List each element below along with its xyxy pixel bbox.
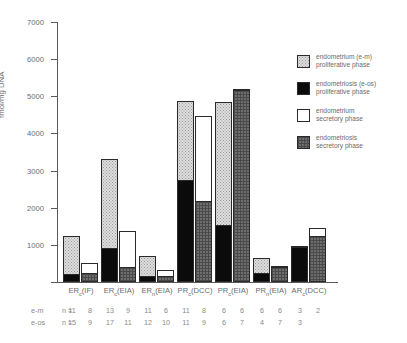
sample-size-row: e-mn =118139116118666632: [0, 306, 407, 317]
sample-size-value: 9: [202, 318, 206, 327]
bar: [233, 89, 250, 283]
bar-segment-em-proliferative: [102, 160, 117, 249]
x-axis-line: [57, 282, 338, 283]
sample-size-value: 8: [88, 306, 92, 315]
x-axis-tick-label: ARc(DCC): [292, 286, 327, 297]
bar-segment-eos-proliferative: [292, 248, 307, 281]
legend-label: endometriosis (e-os)proliferative phase: [316, 80, 376, 97]
sample-size-value: 11: [124, 318, 131, 327]
sample-size-value: 8: [202, 306, 206, 315]
bar: [215, 102, 232, 283]
bar-segment-eos-proliferative: [140, 277, 155, 281]
sample-size-value: 7: [240, 318, 244, 327]
x-axis-tick-label: ERc(IF): [68, 286, 93, 297]
bar: [253, 258, 270, 283]
x-axis-tick-label: ERc(EIA): [104, 286, 135, 297]
bar-group: [139, 22, 175, 282]
bar-segment-eos-secretory: [158, 277, 173, 281]
bar-segment-em-secretory: [120, 232, 135, 268]
sample-size-value: 6: [164, 306, 168, 315]
legend-label-line2: secretory phase: [316, 142, 363, 150]
y-axis-tick-label: 7000: [27, 18, 44, 27]
bar: [291, 246, 308, 282]
legend-label: endometrium (e-m)proliferative phase: [316, 53, 372, 70]
sample-size-value: 11: [68, 306, 75, 315]
sample-size-value: 3: [298, 306, 302, 315]
bar: [63, 236, 80, 282]
bar-segment-eos-proliferative: [178, 181, 193, 281]
bar-segment-eos-secretory: [310, 237, 325, 281]
legend-item: endometriosis (e-os)proliferative phase: [297, 81, 407, 101]
sample-size-row-label: e-m: [31, 306, 43, 315]
legend-label-line2: proliferative phase: [316, 61, 372, 69]
bar-segment-eos-secretory: [120, 268, 135, 281]
x-axis-tick-label: PRc(EIA): [218, 286, 249, 297]
bar-segment-eos-proliferative: [216, 226, 231, 281]
sample-size-value: 17: [106, 318, 114, 327]
y-axis-tick-label: 5000: [27, 92, 44, 101]
bar: [139, 256, 156, 282]
bar-segment-em-secretory: [310, 229, 325, 237]
bar-segment-em-proliferative: [216, 103, 231, 227]
legend-swatch-em-prolif: [297, 55, 310, 68]
chart-figure: fmol/mg DNA 1000200030004000500060007000…: [0, 0, 407, 343]
legend-label-line2: proliferative phase: [316, 88, 376, 96]
sample-size-row-label: e-os: [31, 318, 45, 327]
bar-group: [63, 22, 99, 282]
y-axis-tick-label: 2000: [27, 203, 44, 212]
sample-size-value: 12: [144, 318, 152, 327]
y-axis-labels: 1000200030004000500060007000: [0, 0, 55, 283]
bar-group: [101, 22, 137, 282]
x-axis-tick-label: ERn(EIA): [142, 286, 173, 297]
legend-swatch-em-secret: [297, 109, 310, 122]
bar-group: [253, 22, 289, 282]
sample-size-value: 6: [222, 306, 226, 315]
y-axis-tick-label: 1000: [27, 240, 44, 249]
bar: [309, 228, 326, 282]
legend-item: endometriosissecretory phase: [297, 135, 407, 155]
legend-item: endometriumsecretory phase: [297, 108, 407, 128]
legend-item: endometrium (e-m)proliferative phase: [297, 54, 407, 74]
y-axis-tick-label: 3000: [27, 166, 44, 175]
bar-segment-eos-secretory: [234, 91, 249, 282]
bar-segment-eos-secretory: [196, 202, 211, 281]
sample-size-value: 11: [182, 306, 189, 315]
bar: [271, 266, 288, 282]
sample-size-table: e-mn =118139116118666632e-osn =159171112…: [0, 306, 407, 340]
sample-size-value: 6: [222, 318, 226, 327]
sample-size-value: 15: [68, 318, 76, 327]
bar-segment-em-proliferative: [64, 237, 79, 275]
y-axis-tick-label: 6000: [27, 55, 44, 64]
sample-size-value: 2: [316, 306, 320, 315]
sample-size-value: 13: [106, 306, 114, 315]
bar-group: [177, 22, 213, 282]
sample-size-value: 9: [88, 318, 92, 327]
legend-swatch-eos-prolif: [297, 82, 310, 95]
x-axis-tick-label: PRc(DCC): [178, 286, 213, 297]
sample-size-row: e-osn =1591711121011967473: [0, 318, 407, 329]
bar-segment-eos-proliferative: [64, 275, 79, 281]
x-axis-labels: ERc(IF)ERc(EIA)ERn(EIA)PRc(DCC)PRc(EIA)P…: [0, 286, 407, 302]
bar-segment-em-secretory: [196, 117, 211, 202]
sample-size-value: 11: [144, 306, 151, 315]
legend-label-line1: endometrium (e-m): [316, 53, 372, 61]
bar-segment-eos-proliferative: [102, 249, 117, 281]
legend-label-line1: endometrium: [316, 107, 363, 115]
sample-size-value: 6: [260, 306, 264, 315]
legend-label: endometriosissecretory phase: [316, 134, 363, 151]
bar-segment-em-secretory: [82, 264, 97, 274]
bar: [157, 270, 174, 282]
bar-segment-eos-proliferative: [254, 274, 269, 281]
x-axis-tick-label: PRn(EIA): [256, 286, 287, 297]
sample-size-value: 6: [278, 306, 282, 315]
bar: [101, 159, 118, 282]
bar-segment-em-proliferative: [178, 102, 193, 181]
legend-swatch-eos-secret: [297, 136, 310, 149]
sample-size-value: 6: [240, 306, 244, 315]
sample-size-value: 7: [278, 318, 282, 327]
sample-size-value: 11: [182, 318, 189, 327]
legend-label: endometriumsecretory phase: [316, 107, 363, 124]
legend-label-line1: endometriosis (e-os): [316, 80, 376, 88]
bar: [177, 101, 194, 282]
bar-segment-eos-secretory: [82, 274, 97, 281]
